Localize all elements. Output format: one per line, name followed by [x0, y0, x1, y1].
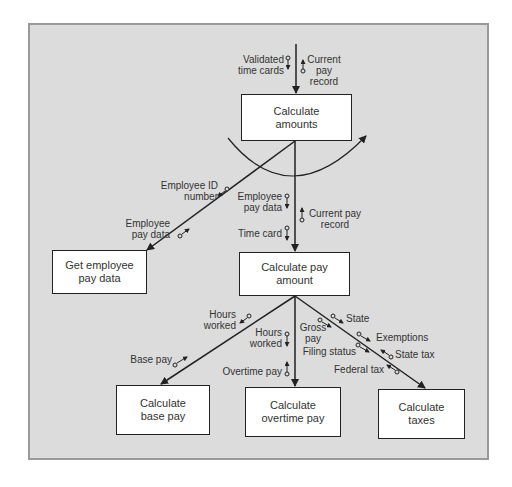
- couple-hours-worked-left-icon: [247, 314, 251, 318]
- couple-overtime-pay-icon: [285, 372, 289, 376]
- module-calculate-pay-amount[interactable]: Calculate pay amount: [239, 252, 350, 296]
- couple-filing-status-icon: [356, 343, 360, 347]
- couple-hours-worked-mid-icon: [285, 332, 289, 336]
- label-current-pay-record-top: Current pay record: [306, 54, 342, 87]
- label-time-card: Time card: [228, 228, 282, 239]
- couple-validated-time-cards-icon: [286, 56, 290, 60]
- label-employee-id-number: Employee ID number: [158, 180, 218, 202]
- couple-employee-pay-data-left-icon: [178, 234, 182, 238]
- label-current-pay-record-mid: Current pay record: [306, 208, 364, 230]
- couple-current-pay-record-top-icon: [301, 69, 305, 73]
- label-hours-worked-left: Hours worked: [196, 309, 236, 331]
- label-exemptions: Exemptions: [376, 332, 428, 343]
- label-filing-status: Filing status: [296, 346, 356, 357]
- label-state: State: [346, 313, 369, 324]
- couple-time-card-icon: [285, 226, 289, 230]
- couple-exemptions-icon: [357, 332, 361, 336]
- label-hours-worked-mid: Hours worked: [240, 327, 282, 349]
- module-get-employee-pay-data[interactable]: Get employee pay data: [52, 250, 147, 294]
- label-base-pay: Base pay: [120, 354, 172, 365]
- couple-employee-pay-data-mid-icon: [285, 194, 289, 198]
- module-calculate-amounts[interactable]: Calculate amounts: [241, 94, 352, 141]
- label-federal-tax: Federal tax: [326, 364, 384, 375]
- loop-arc: [228, 136, 366, 176]
- couple-federal-tax-icon: [395, 370, 399, 374]
- label-employee-pay-data-mid: Employee pay data: [228, 191, 282, 213]
- label-gross-pay: Gross pay: [296, 322, 330, 344]
- couple-state-icon: [331, 314, 335, 318]
- label-state-tax: State tax: [395, 349, 434, 360]
- label-overtime-pay: Overtime pay: [210, 366, 282, 377]
- couple-current-pay-record-mid-icon: [300, 218, 304, 222]
- label-validated-time-cards: Validated time cards: [230, 54, 284, 76]
- module-calculate-base-pay[interactable]: Calculate base pay: [116, 385, 210, 435]
- couple-base-pay-icon: [173, 363, 177, 367]
- label-employee-pay-data-left: Employee pay data: [110, 218, 170, 240]
- couple-state-tax-icon: [389, 355, 393, 359]
- module-calculate-taxes[interactable]: Calculate taxes: [378, 389, 465, 439]
- module-calculate-overtime-pay[interactable]: Calculate overtime pay: [245, 387, 341, 437]
